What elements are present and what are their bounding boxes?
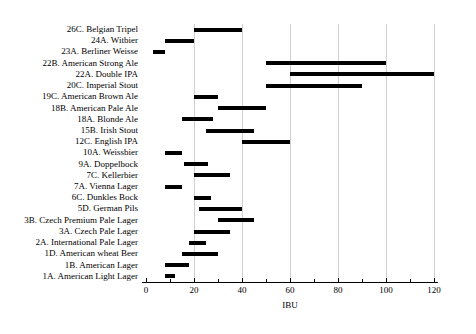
category-label: 1A. American Light Lager	[43, 271, 138, 282]
gridline	[434, 24, 435, 282]
x-axis-line	[142, 282, 438, 283]
category-label: 18A. Blonde Ale	[77, 114, 138, 125]
range-bar	[218, 106, 266, 110]
bar-row	[146, 46, 434, 57]
category-label: 7A. Vienna Lager	[74, 181, 138, 192]
category-label: 6C. Dunkles Bock	[72, 192, 138, 203]
range-bar	[199, 207, 242, 211]
range-bar	[194, 173, 230, 177]
range-bar	[194, 95, 218, 99]
x-tick-label: 120	[427, 285, 441, 295]
range-bar	[165, 263, 189, 267]
bar-row	[146, 181, 434, 192]
category-label: 5D. German Pils	[78, 203, 138, 214]
category-label: 22A. Double IPA	[76, 69, 138, 80]
category-label: 12C. English IPA	[75, 136, 138, 147]
range-bar	[165, 39, 194, 43]
range-bar	[266, 61, 386, 65]
category-label: 24A. Witbier	[91, 35, 138, 46]
range-bar	[184, 162, 208, 166]
range-bar	[182, 117, 213, 121]
bar-row	[146, 35, 434, 46]
range-bar	[218, 218, 254, 222]
x-tick-minor	[170, 279, 171, 282]
category-label: 26C. Belgian Tripel	[67, 24, 138, 35]
x-tick-major	[386, 278, 387, 282]
bar-row	[146, 192, 434, 203]
bar-row	[146, 203, 434, 214]
category-axis: 26C. Belgian Tripel24A. Witbier23A. Berl…	[0, 24, 142, 282]
plot-area	[146, 24, 434, 282]
x-tick-major	[338, 278, 339, 282]
range-bar	[189, 241, 206, 245]
category-label: 9A. Doppelbock	[79, 159, 139, 170]
category-label: 15B. Irish Stout	[81, 125, 138, 136]
x-tick-major	[290, 278, 291, 282]
x-tick-minor	[410, 279, 411, 282]
x-tick-minor	[314, 279, 315, 282]
x-tick-label: 0	[144, 285, 149, 295]
x-tick-label: 20	[190, 285, 199, 295]
ibu-range-chart: 26C. Belgian Tripel24A. Witbier23A. Berl…	[0, 0, 476, 334]
x-tick-major	[434, 278, 435, 282]
range-bar	[165, 151, 182, 155]
category-label: 23A. Berliner Weisse	[61, 46, 138, 57]
bar-row	[146, 125, 434, 136]
x-tick-label: 60	[286, 285, 295, 295]
x-tick-label: 40	[238, 285, 247, 295]
bar-row	[146, 260, 434, 271]
bar-row	[146, 80, 434, 91]
range-bar	[194, 196, 211, 200]
bar-row	[146, 24, 434, 35]
category-label: 18B. American Pale Ale	[51, 103, 138, 114]
bar-row	[146, 103, 434, 114]
x-tick-label: 100	[379, 285, 393, 295]
bar-row	[146, 114, 434, 125]
range-bar	[194, 230, 230, 234]
x-tick-major	[194, 278, 195, 282]
x-axis: IBU 020406080100120	[146, 282, 434, 322]
x-tick-major	[146, 278, 147, 282]
category-label: 19C. American Brown Ale	[42, 91, 138, 102]
category-label: 22B. American Strong Ale	[43, 58, 139, 69]
category-label: 10A. Weissbier	[83, 147, 138, 158]
range-bar	[266, 84, 362, 88]
range-bar	[153, 50, 165, 54]
bar-row	[146, 58, 434, 69]
category-label: 7C. Kellerbier	[87, 170, 138, 181]
bar-row	[146, 215, 434, 226]
x-tick-label: 80	[334, 285, 343, 295]
bar-row	[146, 136, 434, 147]
x-tick-minor	[266, 279, 267, 282]
bar-row	[146, 226, 434, 237]
x-tick-minor	[362, 279, 363, 282]
category-label: 3B. Czech Premium Pale Lager	[24, 215, 138, 226]
range-bar	[206, 129, 254, 133]
bar-row	[146, 69, 434, 80]
bar-row	[146, 248, 434, 259]
bar-row	[146, 147, 434, 158]
bar-row	[146, 159, 434, 170]
x-axis-title: IBU	[146, 300, 434, 310]
x-tick-minor	[218, 279, 219, 282]
category-label: 1D. American wheat Beer	[45, 248, 138, 259]
bar-row	[146, 237, 434, 248]
category-label: 3A. Czech Pale Lager	[59, 226, 138, 237]
range-bar	[182, 252, 218, 256]
range-bar	[165, 185, 182, 189]
x-tick-major	[242, 278, 243, 282]
range-bar	[194, 28, 242, 32]
range-bar	[242, 140, 290, 144]
category-label: 2A. International Pale Lager	[36, 237, 138, 248]
category-label: 1B. American Lager	[65, 260, 138, 271]
range-bar	[165, 274, 175, 278]
category-label: 20C. Imperial Stout	[67, 80, 138, 91]
bar-row	[146, 91, 434, 102]
range-bar	[290, 72, 434, 76]
bar-row	[146, 170, 434, 181]
